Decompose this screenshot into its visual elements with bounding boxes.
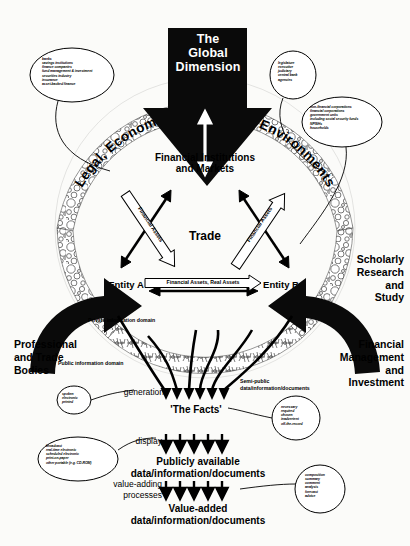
disclosure-item-4: off-the-record xyxy=(281,422,333,426)
callout-generation-text: spoken electronic printed xyxy=(62,392,96,404)
callout-sectors-text: non-financial corporations financial cor… xyxy=(310,105,396,130)
callout-disclosure-text: necessary required chosen inadvertent of… xyxy=(281,405,333,426)
genmode-item-2: printed xyxy=(62,400,96,404)
callout-display-text: broadcast real-time electronic scheduled… xyxy=(46,444,128,465)
institutions-item-6: asset-backed finance xyxy=(42,82,128,86)
government-item-4: agencies xyxy=(278,78,324,82)
diagram-canvas: Legal, Economic and Political Environmen… xyxy=(0,0,410,546)
callout-government-text: legislature executive judiciary central … xyxy=(278,61,324,82)
valueadded-item-5: advice xyxy=(305,494,355,498)
callout-institutions-text: banks savings institutions finance compa… xyxy=(42,57,128,86)
displaymode-item-4: other portable (e.g. CD-ROM) xyxy=(46,461,128,465)
sectors-item-5: households xyxy=(310,126,396,130)
callout-valueadded-text: composition summary comment analysis for… xyxy=(305,473,355,498)
